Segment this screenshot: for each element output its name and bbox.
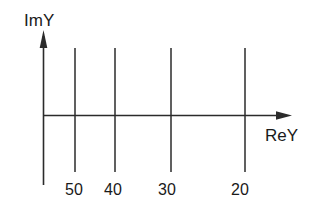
figure-canvas: ImY ReY 50 40 30 20 — [0, 0, 321, 202]
imaginary-axis-arrowhead-icon — [40, 30, 48, 48]
tick-label-20: 20 — [231, 181, 249, 198]
tick-label-50: 50 — [65, 181, 83, 198]
x-axis-label: ReY — [265, 126, 298, 145]
tick-label-40: 40 — [104, 181, 122, 198]
real-axis-arrowhead-icon — [276, 111, 292, 119]
complex-plane-plot: ImY ReY 50 40 30 20 — [0, 0, 321, 202]
tick-label-30: 30 — [158, 181, 176, 198]
y-axis-label: ImY — [24, 11, 54, 30]
